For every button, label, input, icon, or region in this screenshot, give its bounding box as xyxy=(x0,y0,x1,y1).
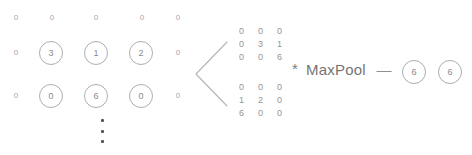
grid-cell-r0c1: 0 xyxy=(40,6,64,30)
matrix-row: 6 0 0 xyxy=(232,107,290,120)
grid-cell-r1c4: 0 xyxy=(166,41,190,65)
grid-cell-r0c0: 0 xyxy=(4,6,28,30)
matrix-cell: 0 xyxy=(251,53,270,62)
matrix-cell: 0 xyxy=(232,27,251,36)
matrix-cell: 1 xyxy=(232,96,251,105)
ellipsis-dot-1 xyxy=(101,119,104,122)
matrix-cell: 0 xyxy=(251,109,270,118)
grid-cell-r1c1: 3 xyxy=(39,41,63,65)
grid-cell-r2c4: 0 xyxy=(166,84,190,108)
grid-cell-r2c3: 0 xyxy=(129,84,153,108)
dash-separator: — xyxy=(376,61,392,79)
matrix-cell: 2 xyxy=(251,96,270,105)
matrix-cell: 0 xyxy=(251,83,270,92)
matrix-cell: 0 xyxy=(270,109,289,118)
matrix-row: 0 0 0 xyxy=(232,25,290,38)
channel-1-patch-matrix: 0 0 0 1 2 0 6 0 0 xyxy=(232,81,290,120)
matrix-row: 1 2 0 xyxy=(232,94,290,107)
asterisk-operator: * xyxy=(288,60,302,78)
grid-cell-r0c2: 0 xyxy=(84,6,108,30)
grid-cell-r2c1: 0 xyxy=(39,84,63,108)
grid-cell-r0c4: 0 xyxy=(166,6,190,30)
matrix-row: 0 0 0 xyxy=(232,81,290,94)
matrix-row: 0 0 6 xyxy=(232,51,290,64)
ellipsis-dot-3 xyxy=(101,140,104,143)
matrix-cell: 0 xyxy=(270,83,289,92)
matrix-cell: 0 xyxy=(232,40,251,49)
grid-cell-r1c3: 2 xyxy=(129,41,153,65)
matrix-cell: 0 xyxy=(232,53,251,62)
matrix-cell: 1 xyxy=(270,40,289,49)
maxpool-label: MaxPool xyxy=(306,61,366,79)
output-cell-1: 6 xyxy=(438,60,462,84)
grid-cell-r1c0: 0 xyxy=(4,41,28,65)
matrix-cell: 6 xyxy=(232,109,251,118)
channel-0-patch-matrix: 0 0 0 0 3 1 0 0 6 xyxy=(232,25,290,64)
output-cell-0: 6 xyxy=(402,60,426,84)
matrix-cell: 0 xyxy=(251,27,270,36)
grid-cell-r2c2: 6 xyxy=(84,84,108,108)
matrix-cell: 6 xyxy=(270,53,289,62)
input-feature-map-grid: 0 0 0 0 0 0 3 1 2 0 0 0 6 0 0 xyxy=(0,0,196,155)
matrix-cell: 0 xyxy=(270,96,289,105)
vertical-ellipsis-icon xyxy=(96,119,108,143)
angle-bracket-left-icon xyxy=(194,40,228,108)
matrix-cell: 3 xyxy=(251,40,270,49)
matrix-cell: 0 xyxy=(270,27,289,36)
ellipsis-dot-2 xyxy=(101,130,104,133)
matrix-row: 0 3 1 xyxy=(232,38,290,51)
grid-cell-r0c3: 0 xyxy=(130,6,154,30)
grid-cell-r1c2: 1 xyxy=(84,41,108,65)
matrix-cell: 0 xyxy=(232,83,251,92)
grid-cell-r2c0: 0 xyxy=(4,84,28,108)
